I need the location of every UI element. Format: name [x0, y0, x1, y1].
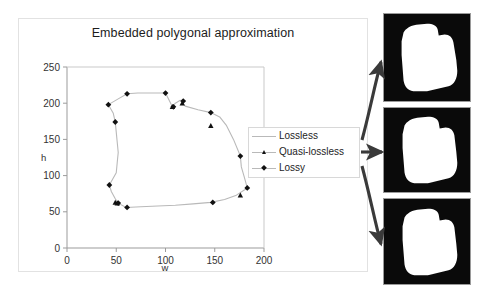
lossy-marker — [124, 205, 130, 211]
legend-key-line-icon — [249, 128, 279, 144]
y-tick-label: 50 — [49, 206, 61, 217]
x-axis-ticks: 050100150200 — [64, 248, 273, 266]
chart-legend: Lossless Quasi-lossless Lossy — [248, 127, 360, 178]
arrow-to-top-panel — [362, 62, 381, 140]
figure-root: Embedded polygonal approximation 0501001… — [0, 0, 495, 297]
y-axis-title: h — [41, 152, 46, 163]
y-tick-label: 150 — [43, 134, 60, 145]
x-tick-label: 50 — [111, 255, 123, 266]
lossy-marker — [124, 91, 130, 97]
legend-key-diamond-icon — [249, 160, 279, 176]
lossy-marker — [210, 199, 216, 205]
series-quasi-lossless — [113, 101, 243, 206]
legend-item-lossless: Lossless — [249, 128, 359, 144]
lossy-marker — [106, 182, 112, 188]
legend-label-lossless: Lossless — [279, 128, 318, 144]
y-axis-ticks: 050100150200250 — [43, 62, 67, 254]
lossy-marker — [208, 110, 214, 116]
lossy-marker — [163, 90, 169, 96]
x-tick-label: 200 — [256, 255, 273, 266]
legend-item-quasi-lossless: Quasi-lossless — [249, 144, 359, 160]
lossy-marker — [112, 119, 118, 125]
quasi-lossless-marker — [208, 123, 213, 128]
lossy-marker — [237, 153, 243, 159]
legend-label-lossy: Lossy — [279, 160, 305, 176]
y-tick-label: 100 — [43, 170, 60, 181]
series-lossy — [105, 90, 250, 210]
legend-key-triangle-icon — [249, 144, 279, 160]
y-tick-label: 250 — [43, 62, 60, 73]
lossy-marker — [105, 102, 111, 108]
legend-item-lossy: Lossy — [249, 160, 359, 176]
y-tick-label: 200 — [43, 98, 60, 109]
arrow-to-bottom-panel — [362, 166, 381, 244]
lossless-polyline — [108, 93, 247, 207]
x-axis-title: w — [161, 262, 169, 273]
y-tick-label: 0 — [54, 243, 60, 254]
legend-label-quasi-lossless: Quasi-lossless — [279, 144, 344, 160]
x-tick-label: 0 — [64, 255, 70, 266]
x-tick-label: 150 — [206, 255, 223, 266]
series-lossless — [108, 93, 247, 207]
